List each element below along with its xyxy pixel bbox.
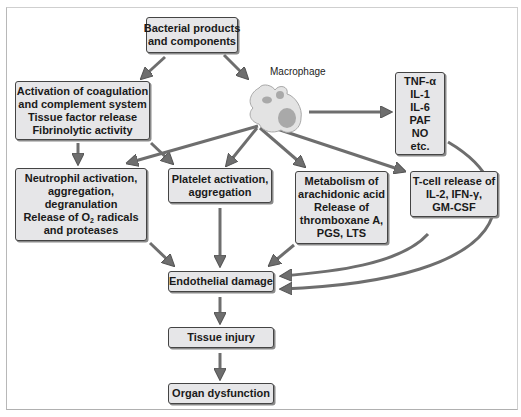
node-text: arachidonic acid xyxy=(298,188,385,201)
node-text: and proteases xyxy=(44,224,119,237)
endothelial-damage-node: Endothelial damage xyxy=(168,271,274,292)
node-text: Tissue injury xyxy=(187,331,255,344)
macrophage-label: Macrophage xyxy=(270,66,326,77)
node-text: thromboxane A, xyxy=(300,214,383,227)
node-text: Activation of coagulation xyxy=(17,85,148,98)
node-text: Release of xyxy=(314,201,369,214)
node-text: TNF-α xyxy=(404,75,436,88)
node-text: IL-2, IFN-γ, xyxy=(426,188,482,201)
node-text: PAF xyxy=(409,114,430,127)
node-text: Tissue factor release xyxy=(28,111,137,124)
node-text: PGS, LTS xyxy=(317,227,366,240)
node-text: and components xyxy=(148,35,236,48)
node-text: and complement system xyxy=(18,98,146,111)
node-text: Release of O xyxy=(23,211,90,223)
platelet-activation-node: Platelet activation, aggregation xyxy=(168,168,272,203)
node-text: Bacterial products xyxy=(144,22,241,35)
node-text: T-cell release of xyxy=(413,175,496,188)
node-text: Neutrophil activation, xyxy=(25,172,137,185)
tissue-injury-node: Tissue injury xyxy=(168,327,274,348)
node-text: Organ dysfunction xyxy=(172,387,270,400)
coagulation-complement-node: Activation of coagulation and complement… xyxy=(15,81,150,140)
neutrophil-activation-node: Neutrophil activation, aggregation, degr… xyxy=(15,168,147,241)
node-text: radicals xyxy=(94,211,139,223)
tcell-release-node: T-cell release of IL-2, IFN-γ, GM-CSF xyxy=(410,171,498,217)
node-text: aggregation xyxy=(189,186,252,199)
node-text: degranulation xyxy=(45,198,118,211)
node-text-o2: Release of O2 radicals xyxy=(23,211,138,224)
node-text: NO xyxy=(412,127,429,140)
cytokines-node: TNF-α IL-1 IL-6 PAF NO etc. xyxy=(395,72,445,155)
node-text: etc. xyxy=(411,140,430,153)
bacterial-products-node: Bacterial products and components xyxy=(146,17,238,53)
node-text: aggregation, xyxy=(48,185,114,198)
node-text: Metabolism of xyxy=(305,175,379,188)
macrophage-icon xyxy=(245,82,309,136)
node-text: Endothelial damage xyxy=(169,275,273,288)
node-text: Platelet activation, xyxy=(172,173,269,186)
organ-dysfunction-node: Organ dysfunction xyxy=(168,383,274,404)
node-text: GM-CSF xyxy=(432,201,475,214)
arachidonic-acid-node: Metabolism of arachidonic acid Release o… xyxy=(295,171,388,244)
node-text: IL-1 xyxy=(410,88,430,101)
node-text: IL-6 xyxy=(410,101,430,114)
node-text: Fibrinolytic activity xyxy=(32,124,132,137)
